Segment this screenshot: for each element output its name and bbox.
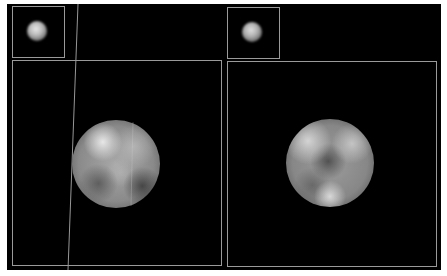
- image-canvas: [7, 4, 441, 270]
- right-inset-body: [242, 22, 262, 42]
- right-main-body: [286, 119, 374, 207]
